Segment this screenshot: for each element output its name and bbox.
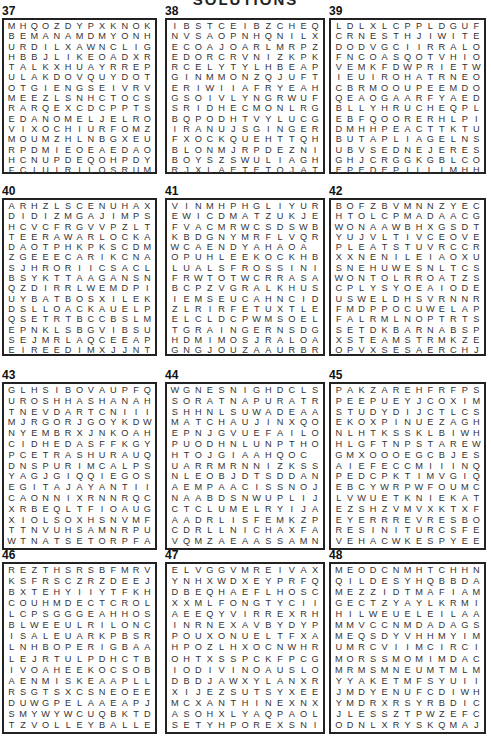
grid-letter: P xyxy=(204,482,216,492)
grid-letter: I xyxy=(298,598,310,608)
grid-letter: N xyxy=(119,396,130,406)
grid-letter: X xyxy=(63,687,74,697)
grid-letter: U xyxy=(216,504,228,514)
grid-letter: Y xyxy=(333,676,344,686)
grid-letter: R xyxy=(286,576,298,586)
grid-letter: B xyxy=(108,709,119,719)
grid-letter: R xyxy=(204,515,216,525)
grid-letter: E xyxy=(6,114,17,124)
grid-letter: S xyxy=(379,345,390,355)
grid-letter: V xyxy=(96,325,107,335)
grid-letter: R xyxy=(263,335,275,345)
grid-letter: D xyxy=(333,42,344,52)
grid-letter: M xyxy=(227,504,239,514)
grid-letter: H xyxy=(40,598,51,608)
grid-letter: I xyxy=(448,587,459,597)
grid-letter: L xyxy=(448,114,459,124)
grid-letter: K xyxy=(85,304,96,314)
grid-letter: V xyxy=(227,428,239,438)
grid-letter: A xyxy=(130,396,141,406)
grid-letter: M xyxy=(413,587,424,597)
grid-letter: A xyxy=(286,709,298,719)
grid-letter: O xyxy=(309,665,321,675)
grid-letter: B xyxy=(181,21,193,31)
grid-letter: I xyxy=(309,145,321,155)
grid-letter: H xyxy=(96,396,107,406)
grid-letter: R xyxy=(169,62,181,72)
grid-letter: N xyxy=(108,407,119,417)
grid-letter: N xyxy=(17,642,28,652)
grid-letter: M xyxy=(471,665,482,675)
grid-letter: L xyxy=(216,525,228,535)
grid-letter: P xyxy=(402,482,413,492)
grid-letter: H xyxy=(309,134,321,144)
grid-letter: D xyxy=(448,654,459,664)
grid-letter: G xyxy=(309,103,321,113)
grid-letter: A xyxy=(17,62,28,72)
grid-letter: T xyxy=(425,52,436,62)
grid-letter: V xyxy=(436,471,447,481)
grid-letter: R xyxy=(367,314,378,324)
grid-letter: M xyxy=(74,31,85,41)
grid-letter: E xyxy=(402,263,413,273)
grid-letter: N xyxy=(130,252,141,262)
grid-letter: N xyxy=(51,493,62,503)
grid-letter: O xyxy=(119,620,130,630)
grid-letter: K xyxy=(40,325,51,335)
grid-letter: L xyxy=(181,471,193,481)
grid-letter: B xyxy=(181,676,193,686)
grid-letter: D xyxy=(142,709,153,719)
grid-letter: G xyxy=(40,417,51,427)
grid-letter: L xyxy=(333,21,344,31)
grid-letter: C xyxy=(379,620,390,630)
grid-letter: I xyxy=(298,294,310,304)
grid-letter: N xyxy=(192,385,204,395)
grid-letter: J xyxy=(471,720,482,730)
grid-letter: T xyxy=(6,720,17,730)
grid-letter: R xyxy=(40,232,51,242)
grid-letter: O xyxy=(51,263,62,273)
grid-letter: D xyxy=(192,232,204,242)
grid-letter: V xyxy=(425,242,436,252)
grid-letter: C xyxy=(96,93,107,103)
grid-letter: X xyxy=(286,698,298,708)
grid-letter: E xyxy=(471,335,482,345)
grid-letter: Q xyxy=(333,576,344,586)
grid-letter: E xyxy=(169,52,181,62)
grid-letter: I xyxy=(227,83,239,93)
grid-letter: A xyxy=(298,407,310,417)
grid-letter: C xyxy=(216,52,228,62)
grid-letter: L xyxy=(356,103,367,113)
grid-letter: E xyxy=(298,21,310,31)
grid-letter: O xyxy=(63,515,74,525)
grid-letter: X xyxy=(204,654,216,664)
grid-letter: E xyxy=(6,345,17,355)
grid-letter: R xyxy=(17,396,28,406)
grid-letter: U xyxy=(286,114,298,124)
grid-letter: M xyxy=(448,83,459,93)
grid-letter: G xyxy=(108,134,119,144)
grid-letter: A xyxy=(85,698,96,708)
grid-letter: D xyxy=(344,720,355,730)
grid-letter: A xyxy=(239,536,251,546)
grid-letter: E xyxy=(142,687,153,697)
grid-letter: S xyxy=(263,222,275,232)
grid-letter: I xyxy=(344,576,355,586)
grid-letter: I xyxy=(286,428,298,438)
grid-letter: E xyxy=(181,294,193,304)
grid-letter: P xyxy=(130,461,141,471)
grid-letter: R xyxy=(40,263,51,273)
grid-letter: O xyxy=(471,72,482,82)
grid-letter: B xyxy=(251,21,263,31)
grid-letter: U xyxy=(344,134,355,144)
grid-letter: N xyxy=(459,294,470,304)
grid-letter: E xyxy=(239,304,251,314)
grid-letter: W xyxy=(413,482,424,492)
grid-letter: N xyxy=(29,325,40,335)
grid-letter: E xyxy=(130,62,141,72)
grid-letter: I xyxy=(74,165,85,175)
grid-letter: A xyxy=(169,482,181,492)
grid-letter: N xyxy=(40,114,51,124)
grid-letter: I xyxy=(459,396,470,406)
grid-letter: A xyxy=(96,609,107,619)
